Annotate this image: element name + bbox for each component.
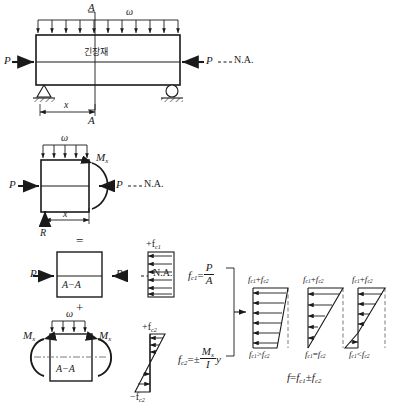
reaction-label: R bbox=[40, 228, 46, 238]
moment-label-left: Mx bbox=[23, 330, 35, 343]
axial-force-label-right: P bbox=[116, 268, 123, 279]
formula-bending: fc2=±MxIy bbox=[178, 346, 221, 370]
bending-stress-block bbox=[135, 334, 165, 392]
moment-label-right: Mx bbox=[99, 330, 111, 343]
formula-axial: fc1=PA bbox=[188, 262, 214, 286]
formula-result: f=fc1±fc2 bbox=[287, 372, 321, 385]
axial-section-box bbox=[57, 252, 102, 297]
result-case-b bbox=[308, 288, 343, 348]
result-a-bottom-label: fc1>fc2 bbox=[249, 350, 270, 360]
moment-arc-left bbox=[31, 339, 44, 376]
force-label-right-freebody: P bbox=[116, 179, 123, 190]
force-label-right-top: P bbox=[206, 55, 213, 66]
section-label-top-a: A bbox=[88, 2, 95, 13]
result-case-c bbox=[345, 288, 385, 348]
beam-top-diagram bbox=[12, 12, 232, 116]
neutral-axis-label-freebody: N.A. bbox=[144, 179, 163, 189]
pin-support bbox=[33, 85, 55, 102]
axial-force-label-left: P bbox=[30, 268, 37, 279]
load-label-freebody: ω bbox=[61, 133, 68, 143]
result-case-a bbox=[253, 288, 288, 348]
formula-bracket bbox=[226, 268, 246, 356]
bending-stress-bottom-label: −fc2 bbox=[130, 392, 145, 403]
result-c-top-label: fc1+fc2 bbox=[352, 275, 373, 285]
freebody-diagram bbox=[18, 145, 142, 226]
force-label-left-freebody: P bbox=[9, 179, 16, 190]
bending-section-label: A−A bbox=[56, 364, 75, 374]
bending-stress-top-label: +fc2 bbox=[142, 322, 157, 333]
freebody-load-arrows bbox=[43, 145, 87, 158]
neutral-axis-label-axial: N.A. bbox=[153, 268, 172, 278]
beam-body bbox=[36, 35, 180, 85]
result-c-bottom-label: fc1<fc2 bbox=[349, 350, 370, 360]
operator-plus: + bbox=[76, 301, 83, 314]
tendon-label: 긴장재 bbox=[84, 48, 108, 57]
result-b-bottom-label: fc1=fc2 bbox=[305, 350, 326, 360]
operator-equals: = bbox=[76, 234, 83, 247]
bending-load-arrows bbox=[52, 321, 85, 332]
result-b-top-label: fc1+fc2 bbox=[303, 275, 324, 285]
dimension-label-x-top: x bbox=[64, 100, 68, 110]
axial-stress-label: +fc1 bbox=[146, 239, 161, 250]
load-label-top: ω bbox=[126, 7, 133, 17]
neutral-axis-label-top: N.A. bbox=[234, 55, 253, 65]
moment-arc-right bbox=[98, 339, 111, 376]
distributed-load-arrows bbox=[38, 20, 178, 33]
force-label-left-top: P bbox=[4, 55, 11, 66]
dimension-label-x-freebody: x bbox=[63, 209, 67, 219]
result-a-top-label: fc1+fc2 bbox=[248, 275, 269, 285]
axial-section-label: A−A bbox=[62, 280, 81, 290]
section-label-bottom-a: A bbox=[88, 115, 95, 126]
roller-support bbox=[161, 85, 183, 102]
bending-load-label: ω bbox=[66, 309, 73, 319]
moment-label-freebody: Mx bbox=[96, 152, 108, 165]
